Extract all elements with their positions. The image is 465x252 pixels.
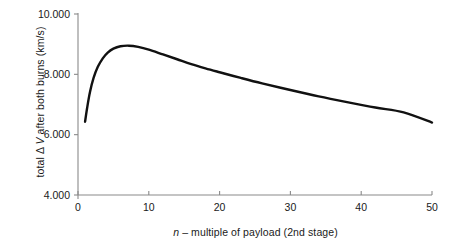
x-axis-title-rest: – multiple of payload (2nd stage) [179, 226, 338, 238]
x-tick-label: 10 [129, 202, 169, 213]
y-tick-label-text: 10.000 [18, 9, 70, 20]
y-tick-label: 10.000 [18, 9, 70, 20]
x-axis-title: n – multiple of payload (2nd stage) [78, 226, 433, 238]
x-tick-label: 20 [200, 202, 240, 213]
y-tick-label: 4.000 [18, 190, 70, 201]
x-tick-label: 30 [270, 202, 310, 213]
y-axis-title-pre: total Δ [34, 145, 46, 178]
axis-tick-marks [74, 14, 432, 199]
chart-figure: total Δ V after both burns (km/s) n – mu… [0, 0, 465, 252]
y-tick-label-text: 6.000 [18, 129, 70, 140]
x-tick-label: 50 [412, 202, 452, 213]
y-tick-label-text: 8.000 [18, 69, 70, 80]
y-axis-title: total Δ V after both burns (km/s) [34, 7, 46, 197]
axis-spines [78, 13, 432, 195]
y-tick-label-text: 4.000 [18, 190, 70, 201]
plot-area [0, 0, 465, 252]
y-tick-label: 6.000 [18, 129, 70, 140]
x-tick-label: 40 [341, 202, 381, 213]
x-tick-label: 0 [58, 202, 98, 213]
y-axis-title-post: after both burns (km/s) [34, 27, 46, 138]
y-tick-label: 8.000 [18, 69, 70, 80]
data-series-layer [85, 46, 432, 123]
data-series-line [85, 46, 432, 123]
